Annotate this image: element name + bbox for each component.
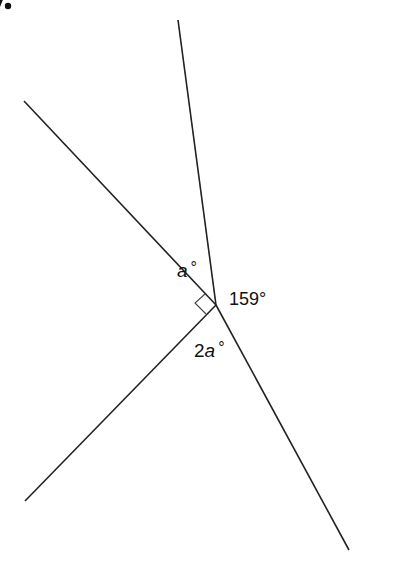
ray-lower-right — [216, 305, 349, 550]
angle-label-2a: 2a° — [194, 339, 225, 361]
question-number-digit-fragment — [0, 0, 2, 8]
right-angle-marker — [195, 294, 206, 314]
ray-lower-left — [25, 305, 216, 501]
question-number-period — [5, 3, 11, 9]
question-number — [0, 0, 11, 9]
angle-label-a: a° — [177, 259, 197, 281]
angle-label-159: 159° — [229, 289, 266, 309]
angle-diagram: a° 159° 2a° — [0, 0, 406, 565]
